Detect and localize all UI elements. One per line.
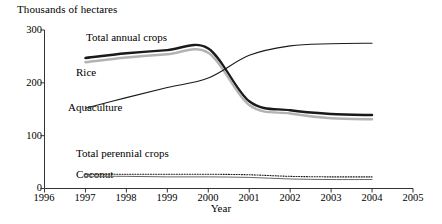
y-axis-ticks [41, 30, 45, 189]
axes [41, 30, 414, 193]
series-paths [85, 43, 372, 179]
x-axis-ticks [45, 189, 414, 193]
series-line-rice [85, 49, 372, 119]
series-line-coconut [85, 176, 372, 179]
chart-canvas [0, 0, 442, 224]
line-chart: Thousands of hectares 300 200 100 0 1996… [0, 0, 442, 224]
